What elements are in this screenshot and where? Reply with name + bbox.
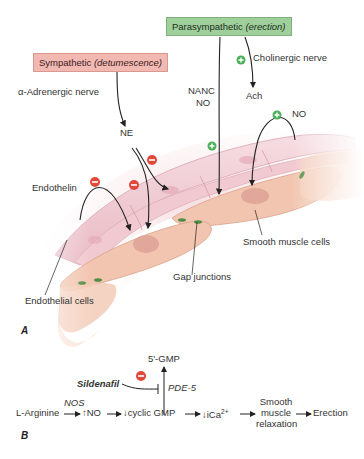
ne-label: NE	[120, 128, 133, 139]
parasympathetic-note: (erection)	[245, 21, 285, 32]
sympathetic-arrow	[117, 70, 125, 126]
parasympathetic-title: Parasympathetic	[172, 21, 243, 32]
no-arrow	[252, 118, 295, 186]
endothelin-label: Endothelin	[32, 183, 77, 194]
no-label: NO	[292, 109, 306, 120]
sildenafil-label: Sildenafil	[77, 379, 119, 390]
minus-icon	[90, 177, 100, 187]
nanc-arrow	[219, 37, 220, 194]
endothelin-arrow	[80, 188, 130, 231]
ica-text: ↓iCa	[202, 409, 221, 420]
plus-icon	[273, 111, 282, 120]
cholinergic-arrow	[245, 37, 253, 87]
ach-label: Ach	[246, 91, 262, 102]
ica-superscript: 2+	[221, 408, 228, 415]
nanc-no-label: NO	[196, 98, 210, 109]
sympathetic-note: (detumescence)	[94, 57, 162, 68]
panel-b-letter: B	[21, 430, 28, 441]
erection-label: Erection	[313, 408, 348, 419]
endothelial-cells-label: Endothelial cells	[25, 296, 94, 307]
smooth-muscle-relaxation-label: Smooth muscle relaxation	[256, 397, 296, 430]
sympathetic-title: Sympathetic	[39, 57, 91, 68]
no-increase-label: ↑NO	[82, 408, 101, 419]
minus-icon	[136, 371, 146, 381]
minus-icon	[129, 180, 139, 190]
smooth-muscle-cells-label: Smooth muscle cells	[243, 237, 330, 248]
plus-icon	[208, 142, 217, 151]
gap-junctions-label: Gap junctions	[173, 272, 231, 283]
parasympathetic-box: Parasympathetic (erection)	[166, 17, 292, 36]
minus-icon	[147, 155, 157, 165]
alpha-adrenergic-nerve-label: α-Adrenergic nerve	[18, 87, 99, 98]
gmp-label: 5'-GMP	[148, 354, 180, 365]
sympathetic-box: Sympathetic (detumescence)	[33, 53, 168, 72]
cholinergic-nerve-label: Cholinergic nerve	[253, 53, 327, 64]
panel-a-letter: A	[21, 325, 28, 336]
ica-label: ↓iCa2+	[202, 408, 228, 421]
cyclic-gmp-label: ↓cyclic GMP	[123, 408, 175, 419]
sildenafil-inhibit-line	[122, 384, 158, 389]
smc-line-3: relaxation	[256, 419, 296, 430]
pde5-label: PDE-5	[168, 383, 196, 394]
l-arginine-label: L-Arginine	[16, 408, 59, 419]
nanc-label: NANC	[188, 86, 215, 97]
plus-icon	[237, 56, 246, 65]
